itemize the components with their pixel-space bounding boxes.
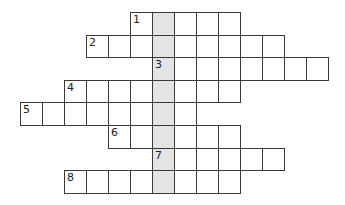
crossword-cell[interactable] [218, 148, 241, 172]
crossword-cell[interactable] [108, 35, 131, 59]
clue-number: 4 [67, 82, 74, 94]
crossword-cell[interactable] [196, 57, 219, 81]
crossword-cell[interactable]: 7 [152, 148, 175, 172]
crossword-cell[interactable] [262, 57, 285, 81]
crossword-cell[interactable] [196, 80, 219, 104]
crossword-cell[interactable] [196, 170, 219, 194]
crossword-cell[interactable] [152, 102, 175, 126]
crossword-cell[interactable] [218, 12, 241, 36]
crossword-cell[interactable] [130, 35, 153, 59]
crossword-cell[interactable] [174, 57, 197, 81]
crossword-cell[interactable] [64, 102, 87, 126]
clue-number: 2 [89, 37, 96, 49]
crossword-cell[interactable] [130, 102, 153, 126]
crossword-cell[interactable]: 5 [20, 102, 43, 126]
crossword-cell[interactable] [218, 80, 241, 104]
crossword-cell[interactable]: 3 [152, 57, 175, 81]
crossword-cell[interactable] [196, 148, 219, 172]
crossword-cell[interactable]: 8 [64, 170, 87, 194]
crossword-cell[interactable] [130, 170, 153, 194]
crossword-cell[interactable] [174, 12, 197, 36]
crossword-cell[interactable] [174, 148, 197, 172]
crossword-cell[interactable] [306, 57, 329, 81]
clue-number: 3 [155, 59, 162, 71]
crossword-cell[interactable] [262, 35, 285, 59]
clue-number: 1 [133, 14, 140, 26]
clue-number: 7 [155, 150, 162, 162]
crossword-cell[interactable] [108, 102, 131, 126]
crossword-cell[interactable] [284, 57, 307, 81]
crossword-cell[interactable] [196, 12, 219, 36]
clue-number: 6 [111, 127, 118, 139]
crossword-cell[interactable] [240, 57, 263, 81]
clue-number: 5 [23, 104, 30, 116]
crossword-cell[interactable] [108, 170, 131, 194]
crossword-cell[interactable] [130, 80, 153, 104]
crossword-cell[interactable] [218, 170, 241, 194]
crossword-cell[interactable] [174, 125, 197, 149]
crossword-cell[interactable] [174, 35, 197, 59]
crossword-cell[interactable]: 6 [108, 125, 131, 149]
crossword-cell[interactable] [152, 35, 175, 59]
crossword-cell[interactable] [86, 80, 109, 104]
crossword-cell[interactable] [218, 57, 241, 81]
crossword-cell[interactable] [218, 35, 241, 59]
crossword-cell[interactable] [218, 125, 241, 149]
crossword-cell[interactable] [174, 80, 197, 104]
crossword-cell[interactable] [130, 125, 153, 149]
crossword-cell[interactable] [174, 170, 197, 194]
crossword-cell[interactable] [152, 170, 175, 194]
crossword-cell[interactable] [196, 35, 219, 59]
crossword-cell[interactable] [196, 125, 219, 149]
crossword-cell[interactable]: 4 [64, 80, 87, 104]
crossword-cell[interactable]: 1 [130, 12, 153, 36]
crossword-cell[interactable] [152, 125, 175, 149]
crossword-cell[interactable] [240, 35, 263, 59]
crossword-cell[interactable] [42, 102, 65, 126]
crossword-cell[interactable] [86, 170, 109, 194]
clue-number: 8 [67, 172, 74, 184]
crossword-cell[interactable] [240, 148, 263, 172]
crossword-cell[interactable] [86, 102, 109, 126]
crossword-cell[interactable] [152, 12, 175, 36]
crossword-cell[interactable] [262, 148, 285, 172]
crossword-cell[interactable] [108, 80, 131, 104]
crossword-cell[interactable] [152, 80, 175, 104]
crossword-cell[interactable] [174, 102, 197, 126]
crossword-cell[interactable]: 2 [86, 35, 109, 59]
crossword-grid: 12345678 [0, 0, 345, 205]
